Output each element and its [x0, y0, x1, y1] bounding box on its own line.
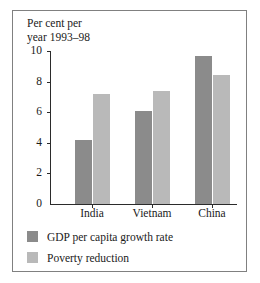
x-tick-label-india: India: [62, 207, 122, 219]
y-tick-label: 2: [20, 166, 42, 178]
x-tick-label-vietnam: Vietnam: [122, 207, 182, 219]
y-tick-mark: [47, 82, 51, 83]
bar: [153, 91, 170, 204]
y-tick-mark: [47, 173, 51, 174]
y-tick-label: 4: [20, 136, 42, 148]
bar: [75, 140, 92, 204]
legend-item: GDP per capita growth rate: [27, 226, 237, 247]
y-tick-label: 0: [20, 197, 42, 209]
legend-swatch-icon: [27, 231, 38, 242]
legend-swatch-icon: [27, 252, 38, 263]
x-tick-label-china: China: [182, 207, 242, 219]
chart-legend: GDP per capita growth ratePoverty reduct…: [27, 226, 237, 268]
bar: [213, 75, 230, 204]
y-tick-label: 6: [20, 105, 42, 117]
bar: [135, 111, 152, 204]
y-tick-mark: [47, 51, 51, 52]
x-axis-line: [50, 204, 237, 205]
bar: [93, 94, 110, 204]
y-axis-line: [50, 51, 51, 204]
bar: [195, 56, 212, 204]
legend-item: Poverty reduction: [27, 247, 237, 268]
legend-label: Poverty reduction: [47, 252, 129, 264]
y-tick-label: 10: [20, 44, 42, 56]
chart-figure: Per cent per year 1993–98 0246810 IndiaV…: [12, 10, 247, 272]
y-tick-mark: [47, 112, 51, 113]
y-tick-mark: [47, 143, 51, 144]
y-tick-label: 8: [20, 75, 42, 87]
legend-label: GDP per capita growth rate: [47, 231, 173, 243]
